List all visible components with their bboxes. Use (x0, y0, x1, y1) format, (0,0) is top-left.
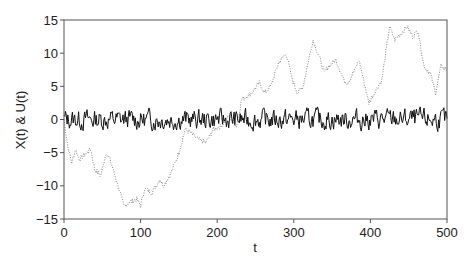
x-tick-label: 100 (130, 225, 152, 240)
x-tick-label: 400 (360, 225, 382, 240)
chart-background (0, 0, 474, 267)
y-tick-label: 0 (51, 112, 58, 127)
y-tick-label: 10 (44, 46, 58, 61)
y-tick-label: −15 (36, 212, 58, 227)
y-axis-label: X(t) & U(t) (13, 91, 28, 150)
y-tick-label: −10 (36, 178, 58, 193)
y-tick-label: 5 (51, 79, 58, 94)
y-tick-label: 15 (44, 13, 58, 28)
x-axis-label: t (253, 240, 257, 255)
y-tick-label: −5 (43, 145, 58, 160)
chart: 151050−5−10−15 0100200300400500 t X(t) &… (0, 0, 474, 267)
x-tick-label: 500 (436, 225, 458, 240)
x-tick-label: 0 (60, 225, 67, 240)
x-tick-label: 300 (283, 225, 305, 240)
x-tick-label: 200 (206, 225, 228, 240)
